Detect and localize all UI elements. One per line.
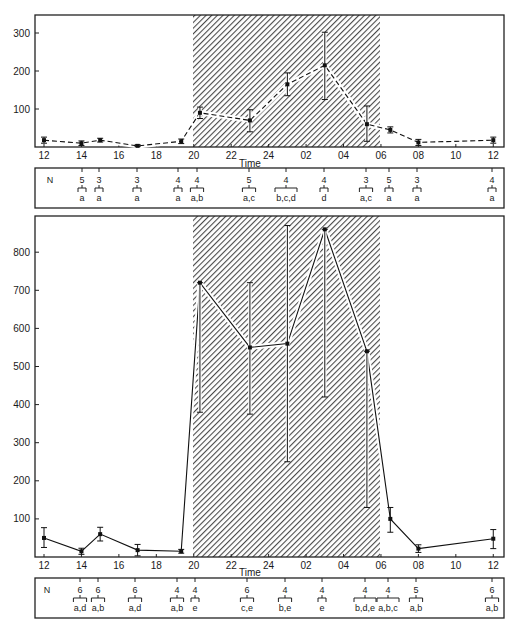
- y-tick-label: 500: [13, 361, 30, 372]
- x-tick-label: 12: [38, 560, 50, 571]
- x-tick-label: 18: [151, 560, 163, 571]
- data-point: [42, 536, 46, 540]
- data-point: [365, 122, 369, 126]
- x-tick-label: 02: [301, 560, 313, 571]
- data-point: [323, 227, 327, 231]
- bracket-icon: [191, 595, 199, 602]
- n-count: 4: [282, 585, 287, 595]
- n-table-item: 6a,b: [485, 578, 498, 613]
- x-tick-label: 06: [375, 150, 387, 161]
- data-point: [98, 532, 102, 536]
- bracket-icon: [95, 185, 103, 192]
- bracket-icon: [377, 595, 399, 602]
- n-table-item: 6a,b: [91, 578, 104, 613]
- n-count: 4: [174, 585, 179, 595]
- bracket-icon: [385, 185, 393, 192]
- significance-letters: a,b,c: [378, 603, 398, 613]
- data-point: [491, 138, 495, 142]
- bracket-icon: [240, 595, 253, 602]
- x-tick-label: 10: [450, 560, 462, 571]
- data-point: [42, 138, 46, 142]
- y-tick-label: 600: [13, 323, 30, 334]
- n-count: 4: [175, 175, 180, 185]
- significance-letters: d: [321, 193, 326, 203]
- bracket-icon: [174, 185, 182, 192]
- bracket-icon: [128, 595, 141, 602]
- x-tick-label: 16: [113, 560, 125, 571]
- x-tick-label: 14: [76, 560, 88, 571]
- x-tick-label: 22: [226, 150, 238, 161]
- figure: 100200300 12141618202224020406081012 Tim…: [0, 0, 518, 633]
- n-count: 4: [489, 175, 494, 185]
- data-point: [285, 82, 289, 86]
- n-table-item: 5a: [385, 168, 393, 203]
- x-tick-label: 20: [188, 150, 200, 161]
- x-tick-label: 20: [188, 560, 200, 571]
- n-table-item: 4b,c,d: [275, 168, 297, 203]
- n-count: 6: [132, 585, 137, 595]
- significance-letters: a,c: [360, 193, 373, 203]
- x-tick-label: 12: [488, 560, 500, 571]
- n-table-item: 4e: [191, 578, 199, 613]
- n-table-item: 3a: [133, 168, 141, 203]
- bracket-icon: [320, 185, 328, 192]
- significance-letters: a: [79, 193, 84, 203]
- bracket-icon: [413, 185, 421, 192]
- x-tick-label: 12: [38, 150, 50, 161]
- x-tick-label: 02: [301, 150, 313, 161]
- bottom-n-table-frame: [35, 578, 504, 618]
- y-tick-label: 100: [13, 104, 30, 115]
- n-table-item: 6a,d: [73, 578, 86, 613]
- data-point: [323, 63, 327, 67]
- data-point: [98, 138, 102, 142]
- top-chart-panel: 100200300 12141618202224020406081012 Tim…: [13, 15, 504, 169]
- x-tick-label: 24: [263, 150, 275, 161]
- n-table-item: 6a,d: [128, 578, 141, 613]
- n-count: 5: [246, 175, 251, 185]
- bracket-icon: [73, 595, 86, 602]
- data-point: [79, 549, 83, 553]
- n-count: 6: [77, 585, 82, 595]
- n-count: 6: [95, 585, 100, 595]
- bracket-icon: [275, 185, 297, 192]
- data-point: [388, 517, 392, 521]
- n-count: 3: [414, 175, 419, 185]
- significance-letters: b,c,d: [276, 193, 296, 203]
- n-table-item: 4b,e: [278, 578, 291, 613]
- significance-letters: a: [96, 193, 101, 203]
- n-count: 3: [134, 175, 139, 185]
- n-count: 6: [489, 585, 494, 595]
- bracket-icon: [78, 185, 86, 192]
- data-point: [136, 144, 140, 148]
- significance-letters: a: [175, 193, 180, 203]
- data-point: [198, 111, 202, 115]
- n-table-item: 4a,b: [170, 578, 183, 613]
- x-tick-label: 04: [338, 560, 350, 571]
- bracket-icon: [170, 595, 183, 602]
- data-point: [179, 139, 183, 143]
- y-tick-label: 400: [13, 399, 30, 410]
- y-tick-label: 300: [13, 437, 30, 448]
- significance-letters: a,b: [171, 603, 184, 613]
- significance-letters: b,e: [279, 603, 292, 613]
- significance-letters: a: [414, 193, 419, 203]
- bracket-icon: [354, 595, 376, 602]
- y-tick-label: 300: [13, 28, 30, 39]
- x-tick-label: 24: [263, 560, 275, 571]
- n-count: 4: [385, 585, 390, 595]
- significance-letters: a,b: [410, 603, 423, 613]
- significance-letters: a: [134, 193, 139, 203]
- bracket-icon: [91, 595, 104, 602]
- bracket-icon: [242, 185, 255, 192]
- significance-letters: a: [386, 193, 391, 203]
- n-table-item: 4b,d,e: [354, 578, 376, 613]
- significance-letters: a: [489, 193, 494, 203]
- x-tick-label: 04: [338, 150, 350, 161]
- data-point: [136, 548, 140, 552]
- significance-letters: a,b: [92, 603, 105, 613]
- n-table-item: 3a: [413, 168, 421, 203]
- x-tick-label: 08: [413, 560, 425, 571]
- bracket-icon: [318, 595, 326, 602]
- n-count: 4: [283, 175, 288, 185]
- bottom-n-row-label: N: [44, 585, 51, 595]
